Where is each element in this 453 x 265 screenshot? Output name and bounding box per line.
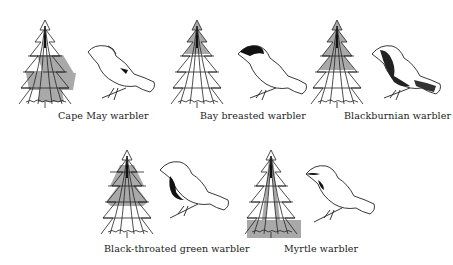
species-label: Blackburnian warbler [344,110,451,121]
species-label: Myrtle warbler [284,243,358,254]
bird-icon [88,46,155,100]
panel-bay-breasted: Bay breasted warbler [170,18,310,128]
species-label: Black-throated green warbler [104,243,250,254]
species-label: Cape May warbler [58,110,149,121]
spruce-tree-icon [18,18,158,108]
bird-icon [160,162,229,218]
spruce-tree-icon [170,18,310,108]
species-label: Bay breasted warbler [200,110,306,121]
panel-cape-may: Cape May warbler [18,18,158,128]
spruce-tree-icon [100,148,250,240]
spruce-tree-icon [244,148,394,240]
panel-black-throated-green: Black-throated green warbler [100,148,250,260]
panel-blackburnian: Blackburnian warbler [310,18,453,128]
spruce-tree-icon [310,18,453,108]
panel-myrtle: Myrtle warbler [244,148,394,260]
